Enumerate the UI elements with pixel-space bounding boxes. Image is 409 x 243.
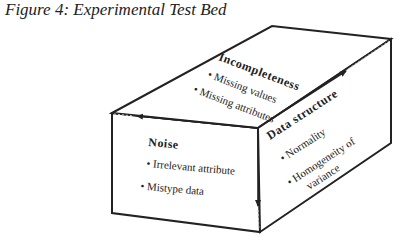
test-bed-cube-diagram: Incompleteness • Missing values • Missin… (0, 0, 409, 243)
noise-title: Noise (148, 135, 180, 152)
front-face (112, 113, 260, 232)
cube-outline (112, 26, 391, 232)
